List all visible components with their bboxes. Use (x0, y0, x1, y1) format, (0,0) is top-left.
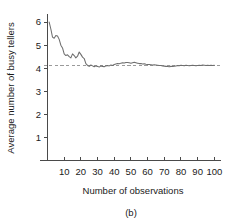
y-tick-label: 6 (36, 16, 41, 27)
figure-caption: (b) (125, 207, 137, 218)
y-tick-label: 1 (36, 132, 41, 143)
x-tick-label: 90 (192, 166, 203, 177)
x-tick-label: 20 (76, 166, 87, 177)
y-tick-label: 2 (36, 109, 41, 120)
x-tick-label: 70 (159, 166, 170, 177)
x-tick-label: 50 (126, 166, 137, 177)
x-tick-label: 30 (92, 166, 103, 177)
x-axis-title: Number of observations (83, 185, 184, 196)
x-tick-label: 80 (176, 166, 187, 177)
y-tick-label: 4 (36, 63, 41, 74)
y-tick-label: 3 (36, 86, 41, 97)
line-chart: 123456 102030405060708090100 Number of o… (0, 0, 232, 224)
figure-panel-b: 123456 102030405060708090100 Number of o… (0, 0, 232, 224)
x-tick-label: 60 (142, 166, 153, 177)
y-tick-label: 5 (36, 40, 41, 51)
x-tick-label: 10 (59, 166, 70, 177)
y-axis-title: Average number of busy tellers (5, 22, 16, 154)
x-tick-label: 100 (206, 166, 222, 177)
x-tick-label: 40 (109, 166, 120, 177)
